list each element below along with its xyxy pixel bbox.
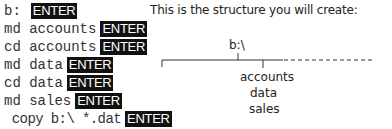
- tree-child-sales: sales: [249, 102, 280, 116]
- directory-tree-lines: [0, 0, 392, 129]
- tree-root-label: b:\: [229, 38, 245, 52]
- tree-child-accounts: accounts: [240, 70, 294, 84]
- tree-child-data: data: [250, 86, 277, 100]
